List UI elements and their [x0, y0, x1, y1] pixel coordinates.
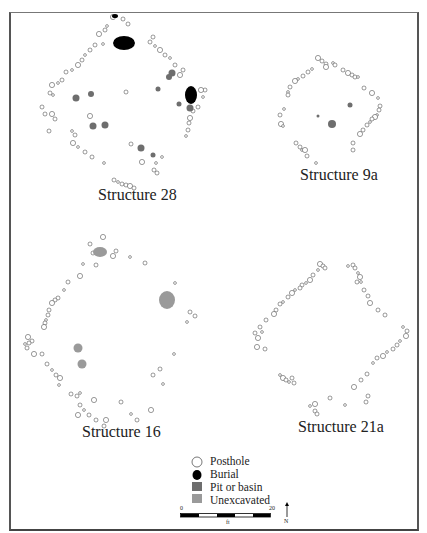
posthole: [187, 115, 192, 120]
posthole: [323, 64, 328, 69]
structure-16-label: Structure 16: [82, 423, 161, 441]
posthole: [25, 346, 29, 350]
pit-or-basin: [177, 102, 182, 107]
burial: [185, 86, 197, 104]
posthole: [79, 392, 82, 395]
posthole: [87, 113, 92, 118]
posthole: [103, 417, 108, 422]
posthole: [320, 59, 324, 63]
posthole: [347, 265, 350, 268]
posthole: [344, 404, 347, 407]
posthole: [148, 407, 153, 412]
posthole: [186, 128, 190, 132]
posthole: [93, 43, 97, 47]
posthole: [395, 343, 399, 347]
posthole: [75, 394, 79, 398]
posthole: [41, 324, 46, 329]
pit-or-basin: [102, 122, 109, 129]
posthole: [263, 347, 267, 351]
posthole: [94, 263, 98, 267]
posthole: [49, 82, 54, 87]
posthole: [54, 373, 58, 377]
posthole: [294, 141, 298, 145]
posthole: [367, 300, 372, 305]
posthole: [355, 280, 359, 284]
posthole: [391, 347, 395, 351]
pit-or-basin: [348, 103, 353, 108]
unexcavated-area: [93, 247, 107, 257]
posthole: [383, 313, 387, 317]
posthole: [90, 155, 94, 159]
posthole: [282, 125, 285, 128]
posthole: [45, 362, 49, 366]
posthole: [103, 162, 106, 165]
posthole: [362, 86, 366, 90]
posthole: [157, 47, 162, 52]
posthole: [25, 334, 30, 339]
posthole: [278, 113, 282, 117]
posthole: [305, 282, 308, 285]
pit-or-basin: [317, 115, 320, 118]
posthole: [91, 397, 96, 402]
posthole: [307, 277, 312, 282]
posthole: [100, 234, 105, 239]
posthole: [78, 403, 82, 407]
posthole: [177, 72, 182, 77]
scale-max-label: 20: [269, 505, 275, 511]
pit-or-basin: [88, 91, 94, 97]
legend-posthole: Posthole: [210, 455, 250, 467]
scale-min-label: 0: [180, 505, 183, 511]
posthole: [58, 384, 61, 387]
posthole: [163, 53, 167, 57]
pit-or-basin: [138, 145, 145, 152]
posthole: [87, 413, 91, 417]
structure-s9a-features: [278, 55, 382, 164]
posthole: [202, 96, 205, 99]
posthole: [181, 68, 185, 72]
posthole: [148, 40, 152, 44]
posthole: [286, 295, 290, 299]
scale-unit-label: ft: [226, 519, 230, 525]
unexcavated-area: [159, 291, 175, 309]
posthole: [84, 54, 87, 57]
posthole: [119, 400, 123, 404]
pit-or-basin: [151, 153, 156, 158]
posthole: [70, 140, 75, 145]
posthole: [77, 146, 80, 149]
posthole: [289, 290, 294, 295]
posthole: [154, 45, 157, 48]
posthole: [365, 123, 369, 127]
posthole: [186, 321, 189, 324]
posthole: [129, 256, 132, 259]
posthole: [60, 78, 64, 82]
posthole: [63, 289, 66, 292]
burial: [112, 14, 118, 18]
posthole: [117, 181, 120, 184]
legend-burial: Burial: [210, 468, 239, 480]
posthole: [47, 308, 51, 312]
posthole: [53, 117, 57, 121]
posthole: [290, 376, 294, 380]
posthole: [362, 288, 366, 292]
legend-pit: Pit or basin: [210, 481, 262, 493]
pit-or-basin: [73, 95, 80, 102]
posthole: [341, 68, 345, 72]
posthole: [185, 135, 188, 138]
posthole: [43, 112, 47, 116]
posthole: [82, 263, 85, 266]
burial-icon: [193, 470, 202, 480]
posthole: [77, 273, 82, 278]
posthole: [94, 418, 98, 422]
posthole: [124, 90, 128, 94]
posthole: [143, 261, 147, 265]
posthole: [317, 269, 320, 272]
posthole: [103, 28, 107, 32]
posthole: [198, 87, 203, 92]
posthole: [188, 310, 192, 314]
posthole: [161, 156, 164, 159]
posthole: [298, 286, 302, 290]
posthole: [357, 272, 360, 275]
posthole: [173, 63, 177, 67]
posthole: [126, 22, 130, 26]
posthole: [158, 367, 162, 371]
